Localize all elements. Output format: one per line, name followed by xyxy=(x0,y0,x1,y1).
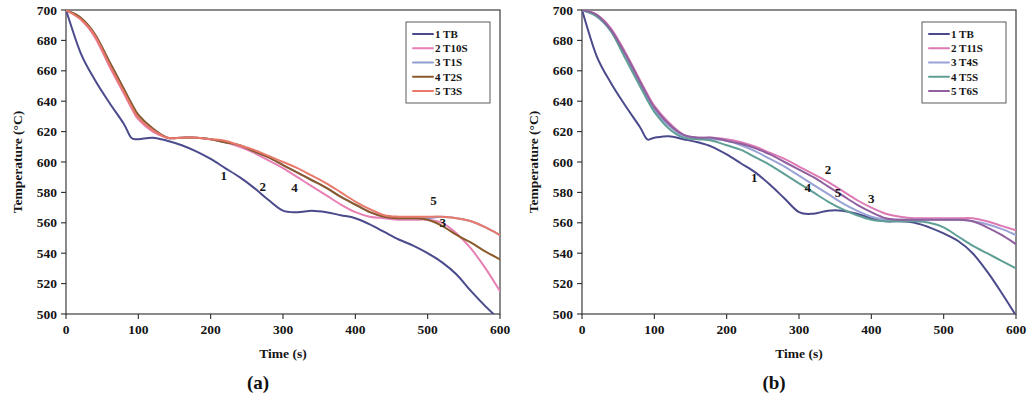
y-tick-label: 580 xyxy=(37,185,58,200)
y-tick-label: 700 xyxy=(37,3,58,18)
panel-b-caption: (b) xyxy=(516,372,1032,394)
y-axis-title: Temperature (°C) xyxy=(526,111,541,214)
x-axis-title: Time (s) xyxy=(259,346,306,361)
y-tick-label: 580 xyxy=(553,185,574,200)
y-tick-label: 600 xyxy=(553,155,574,170)
y-tick-label: 600 xyxy=(37,155,58,170)
curve-annotation: 4 xyxy=(804,180,811,195)
curve-annotation: 2 xyxy=(825,162,832,177)
y-tick-label: 560 xyxy=(37,215,58,230)
y-tick-label: 520 xyxy=(553,276,574,291)
legend-label: 1 TB xyxy=(951,28,974,40)
legend-label: 2 T10S xyxy=(435,42,468,54)
x-tick-label: 600 xyxy=(490,322,511,337)
y-tick-label: 660 xyxy=(37,63,58,78)
panel-b: 5005205405605806006206406606807000100200… xyxy=(516,0,1032,396)
x-axis-title: Time (s) xyxy=(775,346,822,361)
x-tick-label: 300 xyxy=(273,322,294,337)
figure-two-panel-cooling-curves: 5005205405605806006206406606807000100200… xyxy=(0,0,1032,396)
x-tick-label: 200 xyxy=(717,322,738,337)
y-axis-title: Temperature (°C) xyxy=(10,111,25,214)
chart-b-svg: 5005205405605806006206406606807000100200… xyxy=(516,0,1032,396)
legend-label: 3 T4S xyxy=(951,56,978,68)
chart-a-content: 5005205405605806006206406606807000100200… xyxy=(10,3,510,362)
x-tick-label: 300 xyxy=(789,322,810,337)
legend-label: 4 T5S xyxy=(951,71,978,83)
curve-annotation: 3 xyxy=(440,215,447,230)
x-tick-label: 100 xyxy=(644,322,665,337)
legend-label: 5 T3S xyxy=(435,85,462,97)
curve-annotation: 1 xyxy=(220,168,227,183)
y-tick-label: 700 xyxy=(553,3,574,18)
curve-annotation: 2 xyxy=(259,179,266,194)
y-tick-label: 620 xyxy=(37,124,58,139)
y-tick-label: 500 xyxy=(553,307,574,322)
legend-label: 3 T1S xyxy=(435,56,462,68)
y-tick-label: 520 xyxy=(37,276,58,291)
x-tick-label: 400 xyxy=(345,322,366,337)
curve-annotation: 1 xyxy=(751,170,758,185)
y-tick-label: 620 xyxy=(553,124,574,139)
panel-a: 5005205405605806006206406606807000100200… xyxy=(0,0,516,396)
legend-label: 4 T2S xyxy=(435,71,462,83)
curve-annotation: 3 xyxy=(868,191,875,206)
y-tick-label: 660 xyxy=(553,63,574,78)
x-tick-label: 400 xyxy=(861,322,882,337)
y-tick-label: 500 xyxy=(37,307,58,322)
y-tick-label: 540 xyxy=(37,246,58,261)
x-tick-label: 600 xyxy=(1006,322,1027,337)
y-tick-label: 680 xyxy=(37,33,58,48)
y-tick-label: 560 xyxy=(553,215,574,230)
curve-annotation: 4 xyxy=(291,180,298,195)
x-tick-label: 0 xyxy=(579,322,586,337)
x-tick-label: 0 xyxy=(63,322,70,337)
curve-annotation: 5 xyxy=(835,185,842,200)
x-tick-label: 100 xyxy=(128,322,149,337)
y-tick-label: 640 xyxy=(37,94,58,109)
legend-label: 1 TB xyxy=(435,28,458,40)
panel-a-caption: (a) xyxy=(0,372,516,394)
chart-a-svg: 5005205405605806006206406606807000100200… xyxy=(0,0,516,396)
y-tick-label: 680 xyxy=(553,33,574,48)
x-tick-label: 500 xyxy=(418,322,439,337)
x-tick-label: 200 xyxy=(201,322,222,337)
curve-annotation: 5 xyxy=(430,193,437,208)
legend-label: 2 T11S xyxy=(951,42,983,54)
y-tick-label: 640 xyxy=(553,94,574,109)
x-tick-label: 500 xyxy=(934,322,955,337)
y-tick-label: 540 xyxy=(553,246,574,261)
legend-label: 5 T6S xyxy=(951,85,978,97)
chart-b-content: 5005205405605806006206406606807000100200… xyxy=(526,3,1026,362)
